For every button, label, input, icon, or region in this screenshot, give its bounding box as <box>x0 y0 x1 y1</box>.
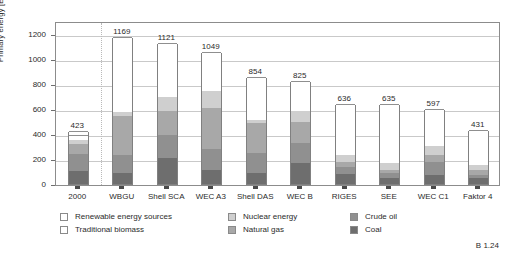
bar-group <box>157 21 178 185</box>
legend-label: Renewable energy sources <box>75 212 172 221</box>
y-axis-tick-label: 1200 <box>14 31 46 39</box>
bar-total-label: 431 <box>448 120 508 129</box>
bar-segment <box>113 112 132 116</box>
legend-swatch <box>60 213 68 221</box>
bar-segment <box>69 131 88 135</box>
legend-column: Renewable energy sourcesTraditional biom… <box>60 210 172 236</box>
separator-line <box>101 23 102 185</box>
bar-segment <box>380 104 399 163</box>
y-axis-tick-label: 0 <box>14 181 46 189</box>
chart-figure: Primary energy [EJ/a] 020040060080010001… <box>0 0 511 256</box>
bar-total-label: 1049 <box>181 42 241 51</box>
figure-code: B 1.24 <box>476 241 499 250</box>
legend-item: Natural gas <box>228 223 297 236</box>
legend-item: Traditional biomass <box>60 223 172 236</box>
bar-segment <box>247 173 266 184</box>
bar-group <box>468 21 489 185</box>
bar-segment <box>247 120 266 123</box>
stacked-bar <box>246 78 267 185</box>
bar-segment <box>425 175 444 184</box>
bar-segment <box>113 37 132 111</box>
legend-item: Nuclear energy <box>228 210 297 223</box>
bar-segment <box>469 175 488 179</box>
bar-segment <box>247 153 266 173</box>
bar-segment <box>69 135 88 140</box>
bar-group <box>112 21 133 185</box>
stacked-bar <box>424 110 445 185</box>
bar-segment <box>469 165 488 170</box>
bar-segment <box>425 146 444 155</box>
bar-segment <box>113 155 132 173</box>
bar-segment <box>336 167 355 174</box>
bar-segment <box>336 155 355 162</box>
legend-label: Coal <box>365 225 381 234</box>
stacked-bar <box>468 131 489 185</box>
stacked-bar <box>112 38 133 185</box>
bar-segment <box>247 123 266 153</box>
legend-swatch <box>60 226 68 234</box>
bar-segment <box>202 52 221 90</box>
y-axis-tick-label: 1000 <box>14 56 46 64</box>
bar-segment <box>202 170 221 184</box>
bar-segment <box>291 143 310 162</box>
legend-label: Nuclear energy <box>243 212 297 221</box>
legend-label: Natural gas <box>243 225 284 234</box>
bar-segment <box>469 130 488 165</box>
stacked-bar <box>379 105 400 185</box>
legend-swatch <box>228 226 236 234</box>
bar-segment <box>336 162 355 167</box>
x-axis-tick-mark <box>75 186 80 189</box>
bar-segment <box>380 173 399 179</box>
bar-segment <box>69 171 88 184</box>
bar-segment <box>291 122 310 143</box>
x-axis-tick-mark <box>386 186 391 189</box>
stacked-bar <box>290 82 311 185</box>
bar-segment <box>247 77 266 120</box>
legend-swatch <box>350 213 358 221</box>
legend-label: Crude oil <box>365 212 397 221</box>
bar-total-label: 597 <box>403 99 463 108</box>
legend-item: Renewable energy sources <box>60 210 172 223</box>
stacked-bar <box>335 105 356 185</box>
legend-item: Crude oil <box>350 210 397 223</box>
bar-segment <box>158 111 177 135</box>
x-axis-tick-mark <box>475 186 480 189</box>
stacked-bar <box>68 132 89 185</box>
x-axis-tick-mark <box>253 186 258 189</box>
x-axis-tick-mark <box>342 186 347 189</box>
bar-segment <box>425 109 444 146</box>
bar-segment <box>69 154 88 172</box>
bar-segment <box>425 162 444 175</box>
x-axis-tick-mark <box>431 186 436 189</box>
bar-segment <box>336 104 355 155</box>
y-axis-tick-label: 800 <box>14 81 46 89</box>
y-axis-tick-label: 400 <box>14 131 46 139</box>
legend-label: Traditional biomass <box>75 225 144 234</box>
bar-segment <box>469 178 488 184</box>
bar-segment <box>158 97 177 111</box>
bar-segment <box>113 173 132 184</box>
bar-segment <box>158 43 177 96</box>
x-axis-tick-mark <box>164 186 169 189</box>
bar-segment <box>291 111 310 122</box>
bar-segment <box>202 108 221 148</box>
bar-segment <box>202 91 221 109</box>
bar-segment <box>69 140 88 144</box>
bar-segment <box>380 163 399 169</box>
bar-segment <box>291 163 310 184</box>
legend-column: Crude oilCoal <box>350 210 397 236</box>
bar-group <box>290 21 311 185</box>
bar-group <box>68 21 89 185</box>
stacked-bar <box>201 53 222 185</box>
bar-segment <box>380 170 399 173</box>
bar-group <box>246 21 267 185</box>
bar-segment <box>69 144 88 154</box>
x-axis-label: Faktor 4 <box>445 192 511 201</box>
bar-segment <box>113 116 132 155</box>
legend-swatch <box>350 226 358 234</box>
legend-swatch <box>228 213 236 221</box>
x-axis-tick-mark <box>119 186 124 189</box>
legend-item: Coal <box>350 223 397 236</box>
bar-segment <box>336 174 355 184</box>
y-axis-tick-label: 200 <box>14 156 46 164</box>
